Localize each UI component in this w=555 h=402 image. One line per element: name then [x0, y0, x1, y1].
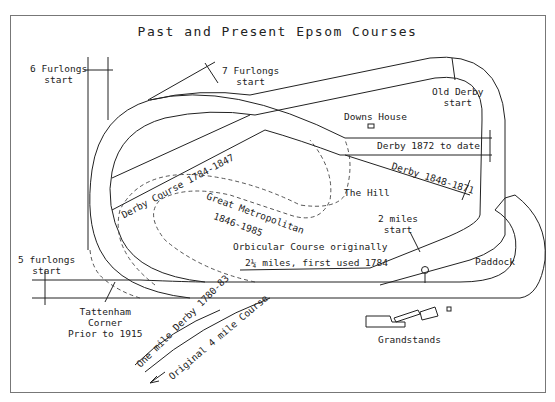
label-six-furlongs: 6 Furlongsstart — [30, 63, 87, 85]
grandstand-right — [420, 307, 438, 320]
grandstand-main — [366, 316, 405, 327]
derby-course-top — [112, 115, 250, 178]
old-derby-marker — [452, 58, 455, 80]
course-lines — [0, 0, 555, 402]
grandstand-middle — [394, 310, 420, 322]
seven-furlong-marker — [205, 63, 218, 83]
downs-house-icon — [368, 124, 374, 128]
label-tattenham-corner: TattenhamCornerPrior to 1915 — [68, 306, 142, 339]
label-grandstands: Grandstands — [378, 334, 441, 345]
label-derby-1872: Derby 1872 to date — [377, 140, 480, 151]
label-seven-furlongs: 7 Furlongsstart — [222, 65, 279, 87]
tattenham-arrow — [105, 282, 115, 302]
label-the-hill: The Hill — [344, 187, 390, 198]
label-orbicular-2: 2¼ miles, first used 1784 — [245, 257, 388, 268]
label-two-miles: 2 milesstart — [378, 213, 418, 235]
tattenham-old — [90, 250, 140, 298]
label-orbicular-1: Orbicular Course originally — [233, 241, 387, 252]
two-miles-marker — [410, 232, 420, 252]
epsom-course-diagram: Past and Present Epsom Courses — [0, 0, 555, 402]
derby-course-bottom — [112, 130, 265, 210]
label-paddock: Paddock — [475, 256, 515, 267]
label-old-derby: Old Derbystart — [432, 86, 483, 108]
small-building-icon — [447, 307, 451, 311]
label-five-furlongs: 5 furlongsstart — [18, 254, 75, 276]
label-downs-house: Downs House — [344, 111, 407, 122]
